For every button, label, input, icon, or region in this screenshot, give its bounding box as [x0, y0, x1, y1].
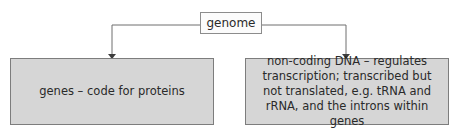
genome-node: genome: [200, 12, 262, 34]
genes-node: genes – code for proteins: [10, 58, 214, 125]
genome-label: genome: [206, 16, 255, 30]
non-coding-dna-node: non-coding DNA – regulates transcription…: [245, 58, 449, 125]
connector-root-to-genes: [112, 25, 200, 55]
genes-label: genes – code for proteins: [39, 84, 185, 99]
connector-root-to-noncoding: [262, 25, 346, 55]
non-coding-dna-label: non-coding DNA – regulates transcription…: [252, 54, 442, 129]
